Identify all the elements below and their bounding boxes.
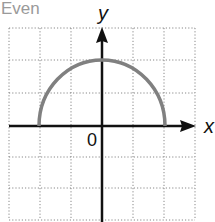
x-axis-arrow-icon — [180, 120, 196, 132]
origin-label: 0 — [87, 130, 97, 150]
chart-plot: x y 0 — [0, 0, 215, 222]
y-axis-label: y — [96, 2, 109, 24]
y-axis — [96, 27, 108, 222]
x-axis-label: x — [203, 115, 215, 137]
y-axis-arrow-icon — [96, 27, 108, 43]
